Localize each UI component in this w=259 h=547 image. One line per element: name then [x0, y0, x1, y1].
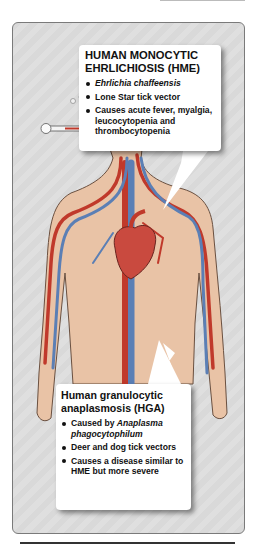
bottom-rule: [20, 542, 235, 544]
hme-item-symptoms: Causes acute fever, myalgia, leucocytope…: [85, 105, 215, 137]
hga-list: Caused by Anaplasma phagocytophilum Deer…: [61, 418, 186, 477]
hme-list: Ehrlichia chaffeensis Lone Star tick vec…: [85, 78, 215, 137]
hme-item-vector: Lone Star tick vector: [85, 92, 215, 103]
hme-title-line2: EHRLICHIOSIS (HME): [85, 62, 215, 75]
hga-callout: Human granulocytic anaplasmosis (HGA) Ca…: [56, 384, 191, 510]
hga-item-severity: Causes a disease similar to HME but more…: [61, 456, 186, 477]
hga-title-line1: Human granulocytic: [61, 389, 186, 402]
hga-item-vector: Deer and dog tick vectors: [61, 442, 186, 453]
hga-item-pathogen: Caused by Anaplasma phagocytophilum: [61, 418, 186, 439]
hga-title-line2: anaplasmosis (HGA): [61, 402, 186, 415]
illustration-panel: HUMAN MONOCYTIC EHRLICHIOSIS (HME) Ehrli…: [12, 22, 245, 534]
hme-item-pathogen: Ehrlichia chaffeensis: [85, 78, 215, 89]
hga-pathogen-prefix: Caused by: [71, 418, 117, 428]
top-rule: [160, 0, 245, 1]
hme-callout: HUMAN MONOCYTIC EHRLICHIOSIS (HME) Ehrli…: [79, 45, 221, 151]
hme-title-line1: HUMAN MONOCYTIC: [85, 49, 215, 62]
